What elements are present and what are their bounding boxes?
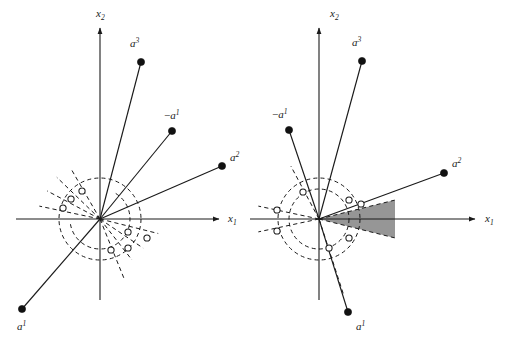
hollow-point-5[interactable] [125, 245, 131, 251]
vector-a3-line [319, 61, 362, 219]
vector-a3-point[interactable] [358, 57, 365, 64]
vector-neg-a1-point[interactable] [285, 126, 292, 133]
vector-neg-a1-label: −a1 [164, 108, 180, 121]
dashed-ray-0 [39, 206, 100, 219]
vector-neg-a1-label: −a1 [272, 107, 288, 120]
vector-a2-line [100, 166, 222, 219]
x2-axis-label: x2 [95, 7, 105, 22]
vector-a2-point[interactable] [218, 162, 225, 169]
hollow-point-5[interactable] [346, 235, 352, 241]
hollow-point-0[interactable] [300, 189, 306, 195]
vector-a2-label: a2 [452, 156, 462, 169]
hollow-point-0[interactable] [79, 188, 85, 194]
vector-a1-line [319, 219, 348, 312]
vector-a1-label: a1 [17, 319, 26, 332]
vector-a1-point[interactable] [18, 305, 25, 312]
hollow-point-1[interactable] [274, 207, 280, 213]
vector-a2-label: a2 [230, 150, 240, 163]
hollow-point-1[interactable] [68, 196, 74, 202]
hollow-point-4[interactable] [358, 201, 364, 207]
vector-neg-a1-line [100, 131, 172, 219]
hollow-point-3[interactable] [346, 197, 352, 203]
vector-a1-point[interactable] [344, 308, 351, 315]
hollow-point-6[interactable] [108, 247, 114, 253]
vector-a3-line [100, 62, 141, 219]
right-panel: x1x2a3−a1a2a1 [250, 7, 494, 332]
left-panel: x1x2a3−a1a2a1 [16, 7, 240, 332]
vector-neg-a1-line [289, 130, 319, 219]
x1-axis-label: x1 [484, 212, 494, 227]
vector-neg-a1-point[interactable] [168, 127, 175, 134]
dashed-ray-2 [57, 177, 100, 219]
vector-a3-label: a3 [352, 35, 362, 48]
dashed-ray-6 [100, 219, 132, 260]
hollow-point-2[interactable] [60, 205, 66, 211]
hollow-point-6[interactable] [326, 245, 332, 251]
vector-a1-line [22, 219, 100, 309]
hollow-point-2[interactable] [274, 228, 280, 234]
figure-canvas: x1x2a3−a1a2a1x1x2a3−a1a2a1 [0, 0, 514, 346]
hollow-point-3[interactable] [125, 229, 131, 235]
vector-a3-point[interactable] [137, 58, 144, 65]
vector-a3-label: a3 [130, 36, 140, 49]
dashed-ray-1 [258, 219, 319, 232]
vector-a1-label: a1 [356, 319, 365, 332]
vector-a2-point[interactable] [440, 169, 447, 176]
x1-axis-label: x1 [227, 212, 237, 227]
dashed-ray-5 [100, 219, 143, 248]
vector-diagram: x1x2a3−a1a2a1x1x2a3−a1a2a1 [0, 0, 514, 346]
x2-axis-label: x2 [329, 7, 339, 22]
hollow-point-4[interactable] [144, 235, 150, 241]
